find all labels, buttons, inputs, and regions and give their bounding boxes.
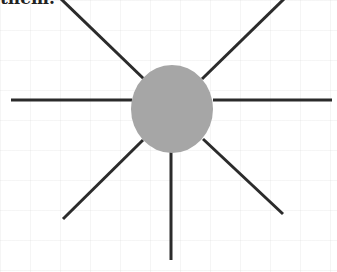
ray-line-1 <box>202 0 285 79</box>
sun-diagram <box>0 0 337 272</box>
ray-line-4 <box>63 140 143 219</box>
center-circle <box>131 65 213 153</box>
ray-line-5 <box>203 139 283 214</box>
ray-line-0 <box>60 0 145 80</box>
diagram-canvas: them. <box>0 0 337 272</box>
